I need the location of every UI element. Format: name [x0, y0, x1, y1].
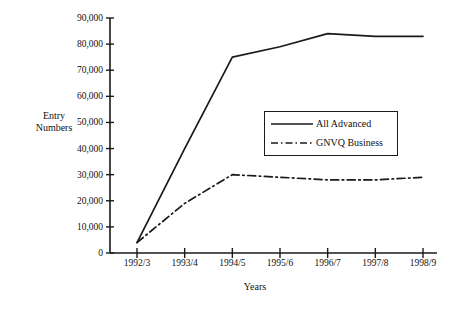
legend-item-gnvq-business: GNVQ Business	[270, 133, 383, 152]
legend-label-all-advanced: All Advanced	[316, 118, 371, 129]
y-axis-tick-label: 70,000	[47, 65, 103, 75]
x-axis-tick-label: 1996/7	[301, 258, 355, 268]
y-axis-tick-label: 80,000	[47, 39, 103, 49]
y-axis-tick-label: 10,000	[47, 222, 103, 232]
x-axis-tick-label: 1997/8	[348, 258, 402, 268]
line-chart: Entry Numbers Years 010,00020,00030,0004…	[0, 0, 451, 309]
chart-legend: All Advanced GNVQ Business	[264, 111, 398, 156]
y-axis-tick-label: 50,000	[47, 117, 103, 127]
x-axis-tick-label: 1993/4	[158, 258, 212, 268]
y-axis-tick-label: 40,000	[47, 144, 103, 154]
y-axis-tick-label: 90,000	[47, 13, 103, 23]
legend-item-all-advanced: All Advanced	[270, 114, 371, 133]
y-axis-tick-label: 0	[47, 248, 103, 258]
x-axis-tick-label: 1995/6	[253, 258, 307, 268]
legend-swatch-dash-dot	[270, 138, 314, 148]
legend-label-gnvq-business: GNVQ Business	[316, 137, 383, 148]
y-axis-tick-label: 60,000	[47, 91, 103, 101]
x-axis-tick-label: 1994/5	[205, 258, 259, 268]
y-axis-tick-label: 20,000	[47, 196, 103, 206]
x-axis-tick-label: 1992/3	[110, 258, 164, 268]
series-line-gnvq-business	[137, 175, 423, 243]
legend-swatch-solid	[270, 119, 314, 129]
x-axis-tick-label: 1998/9	[396, 258, 450, 268]
y-axis-tick-label: 30,000	[47, 170, 103, 180]
